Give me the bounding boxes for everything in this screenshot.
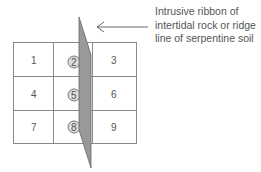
ribbon-caption: Intrusive ribbon of intertidal rock or r… — [155, 5, 256, 46]
cell-1: 1 — [31, 55, 37, 66]
caption-line-2: intertidal rock or ridge — [155, 19, 256, 33]
cell-9: 9 — [111, 122, 117, 133]
cell-4: 4 — [31, 89, 37, 100]
cell-5: 5 — [71, 90, 77, 101]
cell-2: 2 — [71, 57, 77, 68]
caption-line-1: Intrusive ribbon of — [155, 5, 256, 19]
cell-8: 8 — [71, 122, 77, 133]
caption-line-3: line of serpentine soil — [155, 32, 256, 46]
cell-3: 3 — [111, 55, 117, 66]
ribbon-plane — [79, 17, 91, 168]
cell-6: 6 — [111, 89, 117, 100]
cell-7: 7 — [31, 122, 37, 133]
arrow-icon — [97, 22, 148, 32]
